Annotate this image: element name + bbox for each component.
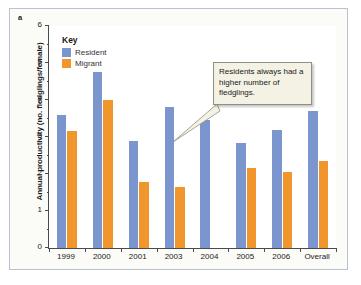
legend-item-migrant: Migrant — [62, 59, 120, 68]
y-tick-label: 2 — [22, 168, 42, 177]
bar-resident-2001 — [129, 141, 139, 248]
legend-item-label: Resident — [75, 48, 107, 57]
bar-migrant-2001 — [139, 182, 149, 248]
bar-resident-1999 — [57, 115, 67, 248]
y-tick-label: 4 — [22, 94, 42, 103]
x-axis-label-2001: 2001 — [129, 252, 147, 261]
y-tick-label: 5 — [22, 57, 42, 66]
bar-resident-2003 — [165, 107, 175, 248]
bar-resident-2004 — [200, 120, 210, 248]
x-axis-labels: 1999200020012003200420052006Overall — [48, 252, 336, 266]
bar-migrant-2006 — [283, 172, 293, 248]
chart-legend: Key ResidentMigrant — [62, 35, 120, 68]
legend-swatch-icon — [62, 48, 71, 57]
bar-migrant-2003 — [175, 187, 185, 248]
bar-migrant-2000 — [103, 100, 113, 248]
x-axis-label-2005: 2005 — [236, 252, 254, 261]
bar-resident-overall — [308, 111, 318, 248]
y-tick-label: 6 — [22, 20, 42, 29]
bar-migrant-2005 — [247, 168, 257, 248]
x-axis-label-2004: 2004 — [201, 252, 219, 261]
bar-resident-2000 — [93, 72, 103, 248]
x-axis-label-2006: 2006 — [272, 252, 290, 261]
legend-title: Key — [62, 35, 120, 45]
x-axis-label-2003: 2003 — [165, 252, 183, 261]
x-tick — [336, 248, 337, 252]
y-tick-label: 0 — [22, 242, 42, 251]
y-axis-title: Annual productivity (no. fledglings/fema… — [35, 7, 44, 237]
y-tick-label: 3 — [22, 131, 42, 140]
annotation-callout: Residents always had a higher number of … — [213, 62, 312, 105]
legend-items: ResidentMigrant — [62, 48, 120, 68]
x-axis-label-2000: 2000 — [93, 252, 111, 261]
figure-panel: a Annual productivity (no. fledglings/fe… — [9, 8, 348, 270]
y-tick-label: 1 — [22, 205, 42, 214]
x-axis-label-overall: Overall — [304, 252, 329, 261]
legend-item-resident: Resident — [62, 48, 120, 57]
bar-resident-2005 — [236, 143, 246, 248]
bar-resident-2006 — [272, 130, 282, 248]
legend-swatch-icon — [62, 59, 71, 68]
bar-migrant-overall — [319, 161, 329, 248]
x-axis-label-1999: 1999 — [57, 252, 75, 261]
bar-migrant-1999 — [67, 131, 77, 248]
legend-item-label: Migrant — [75, 59, 102, 68]
